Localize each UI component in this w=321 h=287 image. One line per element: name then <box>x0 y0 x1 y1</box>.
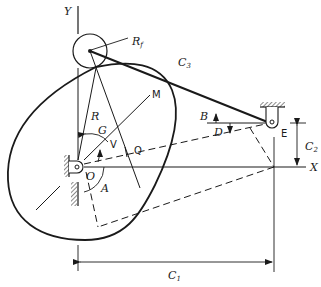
radius-r-label: R <box>90 110 99 123</box>
angle-d-label: D <box>213 126 223 139</box>
dim-c1-label: C1 <box>168 269 181 283</box>
dashed-lower <box>98 167 274 227</box>
y-axis-label: Y <box>64 5 73 18</box>
line-v-label: V <box>110 139 117 150</box>
rf-leader <box>91 38 128 50</box>
pivot-o-bracket <box>69 161 83 173</box>
angle-b-label: B <box>199 110 208 123</box>
dashed-perpendicular <box>250 128 274 167</box>
center-o-label: O <box>86 170 95 183</box>
line-m-label: M <box>152 89 161 100</box>
pivot-e-ground <box>260 102 285 107</box>
angle-g-label: G <box>98 124 107 137</box>
pivot-e-label: E <box>281 128 287 139</box>
link-c3-label: C3 <box>178 56 191 70</box>
cam-mechanism-diagram: Y Rf C3 R M G V Q X O A <box>0 0 321 287</box>
cam-diagonal-stub <box>36 186 60 210</box>
dim-c2-label: C2 <box>305 140 318 154</box>
pivot-e-bracket <box>266 107 278 128</box>
roller-radius-label: Rf <box>131 35 144 49</box>
x-axis-label: X <box>309 161 319 174</box>
line-q-label: Q <box>134 145 142 156</box>
angle-a-label: A <box>100 182 109 195</box>
pivot-o-ground <box>64 155 69 177</box>
pivot-o-ground-lower <box>71 182 77 206</box>
